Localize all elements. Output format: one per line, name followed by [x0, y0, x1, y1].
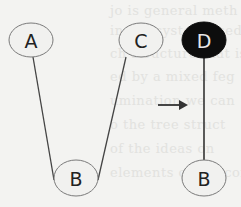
tree-diagram: A C B D B — [0, 0, 241, 207]
node-b-right-label: B — [197, 168, 210, 190]
node-b-left: B — [54, 160, 98, 196]
node-a-label: A — [25, 30, 38, 52]
node-c: C — [119, 23, 163, 57]
node-b-right: B — [182, 160, 226, 196]
diagram-canvas: jo is general meth in the system used ch… — [0, 0, 241, 207]
edge-c-to-b — [98, 57, 126, 180]
node-b-left-label: B — [69, 168, 82, 190]
edge-a-to-b — [33, 57, 54, 180]
node-a: A — [9, 23, 53, 57]
node-c-label: C — [134, 30, 147, 52]
node-d: D — [182, 22, 226, 58]
node-d-label: D — [197, 30, 212, 52]
transform-arrow-icon — [158, 100, 188, 110]
